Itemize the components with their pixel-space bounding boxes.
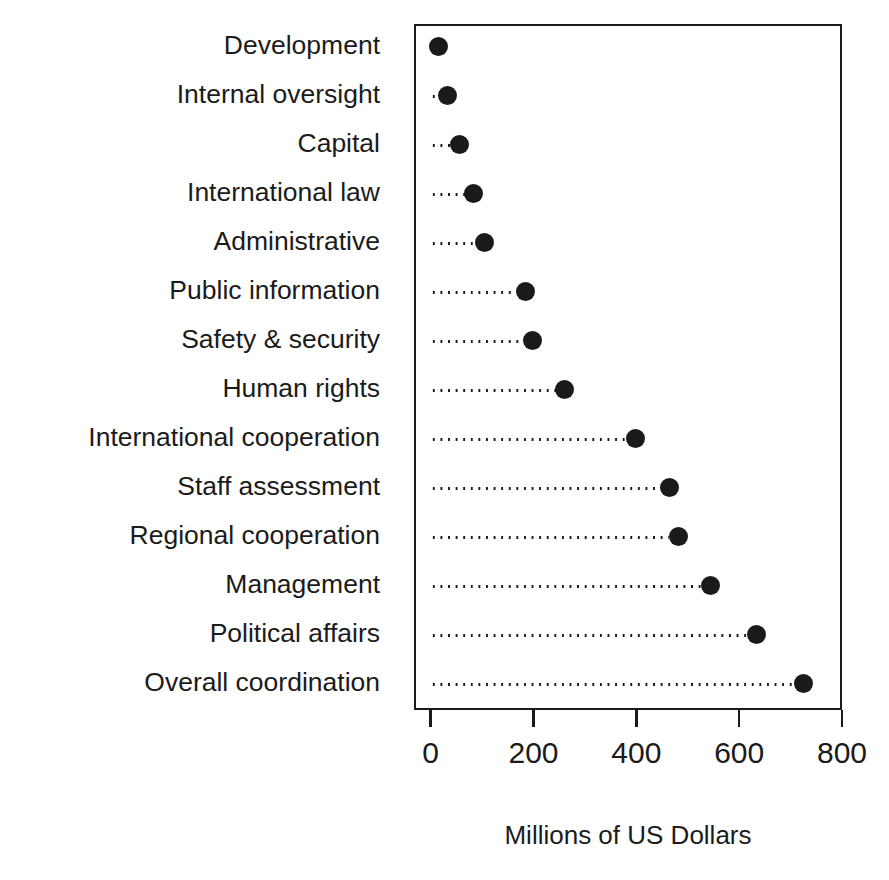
plot-area xyxy=(416,26,840,708)
data-point[interactable] xyxy=(626,429,645,448)
leader-line xyxy=(430,585,702,588)
data-point[interactable] xyxy=(669,527,688,546)
category-label: Public information xyxy=(169,273,380,307)
leader-line xyxy=(430,193,465,196)
leader-line xyxy=(430,536,669,539)
category-label: Capital xyxy=(298,126,381,160)
data-point[interactable] xyxy=(747,625,766,644)
data-point[interactable] xyxy=(450,135,469,154)
data-point[interactable] xyxy=(660,478,679,497)
leader-line xyxy=(430,634,747,637)
category-label: Management xyxy=(225,567,380,601)
data-point[interactable] xyxy=(464,184,483,203)
data-point[interactable] xyxy=(523,331,542,350)
x-axis-tick-label: 200 xyxy=(508,736,558,770)
plot-panel xyxy=(414,24,842,710)
x-axis-tick xyxy=(532,710,535,727)
category-label: International cooperation xyxy=(88,420,380,454)
dot-plot-figure: ......, ... .. .... ....., .. Developmen… xyxy=(0,0,889,880)
data-point[interactable] xyxy=(555,380,574,399)
x-axis-tick xyxy=(429,710,432,727)
data-point[interactable] xyxy=(701,576,720,595)
category-label: Regional cooperation xyxy=(130,518,380,552)
clipped-title-artifact: ......, ... .. .... ....., .. xyxy=(10,0,510,4)
category-label: Staff assessment xyxy=(177,469,380,503)
category-label: Political affairs xyxy=(210,616,380,650)
data-point[interactable] xyxy=(475,233,494,252)
category-label: Development xyxy=(224,28,380,62)
x-axis-tick-label: 400 xyxy=(611,736,661,770)
leader-line xyxy=(430,683,795,686)
x-axis-tick-label: 600 xyxy=(714,736,764,770)
leader-line xyxy=(430,487,661,490)
data-point[interactable] xyxy=(429,37,448,56)
data-point[interactable] xyxy=(794,674,813,693)
category-axis: DevelopmentInternal oversightCapitalInte… xyxy=(0,24,392,710)
category-label: Administrative xyxy=(214,224,380,258)
x-axis-tick xyxy=(841,710,844,727)
leader-line xyxy=(430,438,627,441)
data-point[interactable] xyxy=(516,282,535,301)
x-axis: 0200400600800 xyxy=(414,710,842,800)
x-axis-tick xyxy=(635,710,638,727)
leader-line xyxy=(430,340,523,343)
x-axis-tick xyxy=(738,710,741,727)
data-point[interactable] xyxy=(438,86,457,105)
category-label: Human rights xyxy=(222,371,380,405)
leader-line xyxy=(430,291,516,294)
x-axis-tick-label: 800 xyxy=(817,736,867,770)
category-label: International law xyxy=(187,175,380,209)
category-label: Internal oversight xyxy=(177,77,380,111)
x-axis-tick-label: 0 xyxy=(422,736,439,770)
leader-line xyxy=(430,389,556,392)
leader-line xyxy=(430,144,451,147)
leader-line xyxy=(430,242,475,245)
x-axis-title: Millions of US Dollars xyxy=(414,820,842,851)
category-label: Safety & security xyxy=(181,322,380,356)
category-label: Overall coordination xyxy=(144,665,380,699)
